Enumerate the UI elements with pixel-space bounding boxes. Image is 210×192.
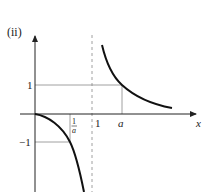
- x-tick-a: a: [118, 117, 124, 129]
- x-tick-1: 1: [95, 117, 101, 129]
- function-graph: (ii) 1 −1 1 a 1 a x: [0, 0, 210, 192]
- panel-label: (ii): [7, 25, 22, 39]
- x-axis-label: x: [195, 117, 201, 129]
- y-tick-1: 1: [27, 79, 33, 91]
- x-tick-inv-a-den: a: [72, 126, 76, 135]
- x-tick-inv-a-num: 1: [72, 117, 76, 126]
- right-branch-curve: [102, 45, 172, 108]
- y-tick-neg1: −1: [19, 136, 31, 148]
